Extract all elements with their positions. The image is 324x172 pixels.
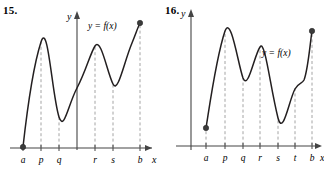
y-axis-label: y <box>180 8 186 19</box>
figure-15: 15. y <box>0 0 162 172</box>
tick-label-r: r <box>258 153 262 163</box>
endpoint-dot-b <box>309 28 314 33</box>
tick-label-q: q <box>57 155 62 165</box>
tick-label-t: t <box>294 153 297 163</box>
tick-label-s: s <box>276 153 280 163</box>
curve-label-f-of-x: y = f(x) <box>87 21 117 32</box>
tick-label-p: p <box>38 155 44 165</box>
tick-label-a: a <box>204 153 209 163</box>
tick-label-p: p <box>222 153 228 163</box>
figure-16: 16. <box>162 0 324 172</box>
y-axis-arrowhead <box>74 11 80 19</box>
figure-15-plot: y x y = f(x) a p q r s b <box>0 0 162 172</box>
x-axis-label: x <box>319 152 324 163</box>
tick-label-r: r <box>93 155 97 165</box>
tick-label-b: b <box>310 153 315 163</box>
tick-label-q: q <box>241 153 246 163</box>
tick-label-a: a <box>21 155 26 165</box>
curve-label-f-of-x: y = f(x) <box>261 48 291 59</box>
endpoint-dot-b <box>137 20 142 25</box>
y-axis-label: y <box>66 11 72 22</box>
x-axis-arrowhead <box>315 143 322 149</box>
tick-label-s: s <box>111 155 115 165</box>
figure-16-plot: y x y = f(x) a p q r s t b <box>162 0 324 172</box>
figure-pair-page: 15. y <box>0 0 324 172</box>
endpoint-dot-a <box>203 125 208 130</box>
x-axis-label: x <box>151 154 157 165</box>
x-axis-arrowhead <box>145 145 152 151</box>
endpoint-dot-a <box>20 144 25 149</box>
tick-label-b: b <box>138 155 143 165</box>
curve-f-of-x <box>206 28 312 128</box>
y-axis-arrowhead <box>188 9 194 17</box>
